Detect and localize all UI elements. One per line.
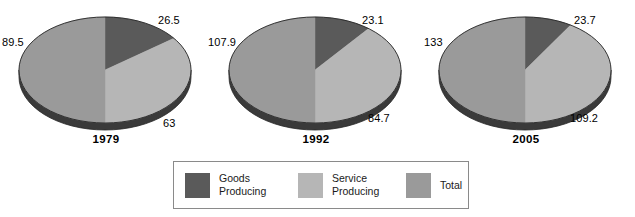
- pie-chart-1992: 23.184.7107.91992: [210, 0, 422, 160]
- pie-chart-1979: 26.56389.51979: [0, 0, 212, 160]
- value-label-service_producing: 109.2: [570, 112, 598, 124]
- value-label-goods_producing: 26.5: [158, 14, 180, 26]
- year-label-1979: 1979: [0, 133, 212, 145]
- pie-slice-total: [439, 17, 525, 123]
- legend-item-goods_producing: GoodsProducing: [185, 172, 266, 198]
- legend-item-total: Total: [406, 173, 462, 198]
- legend-label-line1: Total: [440, 179, 462, 192]
- chart-legend: GoodsProducingServiceProducingTotal: [173, 161, 469, 209]
- pie-slice-total: [229, 17, 315, 123]
- value-label-service_producing: 63: [163, 117, 175, 129]
- value-label-total: 133: [424, 36, 443, 48]
- legend-swatch-total: [406, 173, 431, 198]
- legend-label-total: Total: [440, 179, 462, 192]
- value-label-goods_producing: 23.7: [574, 14, 596, 26]
- pie-slice-total: [19, 17, 105, 123]
- legend-label-line2: Producing: [219, 185, 266, 198]
- value-label-total: 107.9: [208, 36, 236, 48]
- legend-label-goods_producing: GoodsProducing: [219, 172, 266, 198]
- value-label-total: 89.5: [2, 36, 24, 48]
- legend-label-service_producing: ServiceProducing: [332, 172, 379, 198]
- year-label-2005: 2005: [420, 133, 632, 145]
- value-label-service_producing: 84.7: [368, 112, 390, 124]
- value-label-goods_producing: 23.1: [362, 14, 384, 26]
- year-label-1992: 1992: [210, 133, 422, 145]
- legend-swatch-service_producing: [298, 173, 323, 198]
- legend-item-service_producing: ServiceProducing: [298, 172, 379, 198]
- legend-label-line2: Producing: [332, 185, 379, 198]
- legend-swatch-goods_producing: [185, 173, 210, 198]
- pie-chart-2005: 23.7109.21332005: [420, 0, 632, 160]
- legend-label-line1: Goods: [219, 172, 266, 185]
- legend-label-line1: Service: [332, 172, 379, 185]
